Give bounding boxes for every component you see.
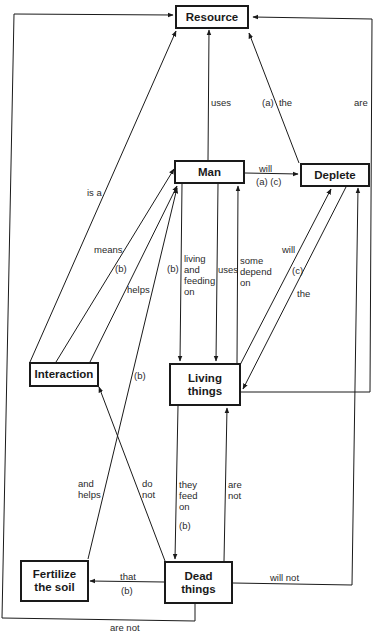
label-means: means (94, 244, 123, 255)
node-dead-things: Dead things (164, 561, 233, 604)
node-deplete: Deplete (300, 163, 370, 187)
node-interaction: Interaction (29, 362, 99, 387)
label-do-not: do not (142, 478, 155, 500)
label-a-the: (a) the (262, 97, 292, 108)
label-are-not-mid: are not (228, 479, 242, 501)
label-is-a: is a (87, 187, 102, 198)
label-are: are (354, 97, 368, 108)
label-will-living-deplete: will (282, 244, 295, 255)
connector-lines (0, 0, 380, 635)
node-resource: Resource (175, 5, 249, 29)
label-they-feed-on: they feed on (179, 479, 198, 512)
node-man: Man (174, 160, 245, 184)
label-b-feed: (b) (179, 520, 191, 531)
label-and-helps: and helps (78, 478, 101, 500)
label-c: (c) (292, 265, 303, 276)
label-living-feeding-on: living and feeding on (184, 253, 215, 297)
label-helps: helps (127, 284, 150, 295)
label-uses-mid: uses (218, 264, 238, 275)
label-the: the (297, 288, 310, 299)
label-b-left: (b) (167, 263, 179, 274)
label-will-not: will not (270, 572, 299, 583)
label-b-interaction: (b) (134, 370, 146, 381)
label-a-c: (a) (c) (256, 176, 281, 187)
label-uses-top: uses (211, 97, 231, 108)
node-fertilize-soil: Fertilize the soil (20, 560, 89, 602)
label-are-not-bottom: are not (110, 622, 140, 633)
label-will-man-deplete: will (259, 163, 272, 174)
node-living-things: Living things (169, 363, 241, 406)
label-b-means: (b) (115, 263, 127, 274)
label-b-that: (b) (121, 585, 133, 596)
label-that: that (120, 571, 136, 582)
label-some-depend-on: some depend on (240, 255, 272, 288)
